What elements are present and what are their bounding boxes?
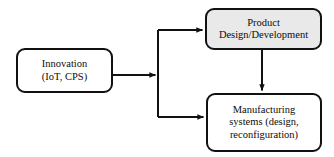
product-design-development-node: Product Design/Development [205,8,322,50]
innovation-node: Innovation (IoT, CPS) [16,48,113,93]
manufacturing-systems-node-line-1: Manufacturing [226,104,301,116]
innovation-node-line-2: (IoT, CPS) [39,71,91,83]
product-design-development-node-line-1: Product [216,17,311,29]
manufacturing-systems-node-line-3: reconfiguration) [226,129,301,141]
manufacturing-systems-node-line-2: systems (design, [226,116,301,128]
manufacturing-systems-node: Manufacturing systems (design, reconfigu… [206,93,322,152]
diagram-canvas: Innovation (IoT, CPS) Product Design/Dev… [0,0,334,157]
innovation-node-line-1: Innovation [39,58,91,70]
product-design-development-node-line-2: Design/Development [216,29,311,41]
